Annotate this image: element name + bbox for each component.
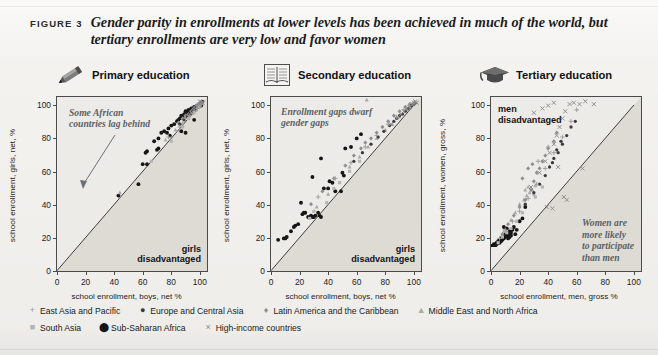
y-axis-tick-label: 100: [251, 100, 265, 110]
y-axis-tick: [487, 105, 491, 106]
y-axis-tick: [267, 205, 271, 206]
x-axis-tick-label: 40: [543, 277, 552, 287]
x-axis-tick-label: 20: [295, 277, 304, 287]
legend-item[interactable]: ×High-income countries: [202, 323, 302, 333]
x-axis-tick: [520, 271, 521, 275]
x-axis-title: school enrollment, boys, net %: [222, 292, 437, 301]
y-axis-tick-label: 40: [42, 200, 51, 210]
x-axis-tick: [271, 271, 272, 275]
x-axis-tick-label: 20: [515, 277, 524, 287]
y-axis-tick: [487, 205, 491, 206]
figure-caption: FIGURE 3 Gender parity in enrollments at…: [30, 14, 630, 47]
x-axis-tick: [86, 271, 87, 275]
legend-item-label: Middle East and North Africa: [429, 306, 538, 316]
annotation-arrow-icon: [75, 133, 123, 195]
legend-row: ■South Asia⬤Sub-Saharan Africa×High-inco…: [0, 319, 658, 336]
x-axis-tick-label: 0: [55, 277, 60, 287]
x-axis-tick-label: 80: [601, 277, 610, 287]
legend-item-label: High-income countries: [216, 323, 302, 333]
y-axis-tick-label: 80: [42, 133, 51, 143]
panel-header: Tertiary education: [438, 58, 658, 92]
y-axis-tick-label: 40: [476, 200, 485, 210]
legend-item[interactable]: ■South Asia: [26, 323, 81, 333]
legend-item-label: South Asia: [40, 323, 81, 333]
x-axis-tick: [200, 271, 201, 275]
y-axis-tick-label: 20: [256, 233, 265, 243]
x-axis-tick: [548, 271, 549, 275]
diamond-marker-icon: ♦: [259, 306, 272, 315]
legend-item-label: Europe and Central Asia: [150, 306, 243, 316]
corner-note: men disadvantaged: [498, 104, 562, 125]
x-axis-tick: [357, 271, 358, 275]
y-axis-tick-label: 100: [471, 100, 485, 110]
legend-item-label: Latin America and the Caribbean: [273, 306, 398, 316]
figure-root: FIGURE 3 Gender parity in enrollments at…: [0, 0, 658, 355]
x-axis-tick-label: 40: [323, 277, 332, 287]
y-axis-tick-label: 60: [476, 167, 485, 177]
legend-item[interactable]: ●Europe and Central Asia: [136, 306, 243, 316]
legend-item[interactable]: ♦Latin America and the Caribbean: [259, 306, 398, 316]
y-axis-tick-label: 60: [42, 167, 51, 177]
x-axis-tick-label: 100: [627, 277, 641, 287]
chart-panels: Primary education school enrollment, gir…: [0, 58, 658, 300]
legend-item[interactable]: +East Asia and Pacific: [26, 306, 120, 316]
legend-item-label: East Asia and Pacific: [40, 306, 120, 316]
y-axis-tick: [53, 138, 57, 139]
triangle-marker-icon: ▲: [415, 306, 428, 315]
x-axis-tick: [143, 271, 144, 275]
x-axis-tick: [577, 271, 578, 275]
x-axis-tick: [328, 271, 329, 275]
legend-item[interactable]: ⬤Sub-Saharan Africa: [97, 323, 186, 333]
pencil-icon: [54, 61, 88, 89]
y-axis-title: school enrollment, girls, net, %: [6, 94, 20, 276]
y-axis-tick: [53, 105, 57, 106]
x-axis-tick-label: 80: [167, 277, 176, 287]
x-axis-title: school enrollment, men, gross %: [438, 292, 654, 301]
legend-item[interactable]: ▲Middle East and North Africa: [415, 306, 538, 316]
panel-annotation: Some African countries lag behind: [69, 107, 150, 130]
legend-row: +East Asia and Pacific●Europe and Centra…: [0, 302, 658, 319]
y-axis-tick: [487, 138, 491, 139]
figure-caption-text: Gender parity in enrollments at lower le…: [91, 14, 630, 47]
panel-primary-education: Primary education school enrollment, gir…: [8, 58, 223, 300]
bottom-rule: [0, 349, 658, 350]
figure-number: FIGURE 3: [30, 17, 83, 29]
x-axis-tick-label: 0: [489, 277, 494, 287]
y-axis-tick-label: 0: [480, 266, 485, 276]
x-axis-tick: [300, 271, 301, 275]
y-axis-tick: [267, 138, 271, 139]
legend-item-label: Sub-Saharan Africa: [111, 323, 186, 333]
x-axis-tick: [491, 271, 492, 275]
x-axis-tick-label: 100: [193, 277, 207, 287]
y-axis-tick-label: 0: [46, 266, 51, 276]
panel-annotation: Enrollment gaps dwarf gender gaps: [281, 106, 372, 129]
x-axis-tick-label: 60: [352, 277, 361, 287]
y-axis-tick: [53, 172, 57, 173]
y-axis-tick: [53, 238, 57, 239]
y-axis-tick: [267, 105, 271, 106]
panel-title: Tertiary education: [516, 69, 612, 81]
x-axis-tick-label: 0: [269, 277, 274, 287]
x-axis-tick-label: 100: [407, 277, 421, 287]
x-axis-tick-label: 60: [572, 277, 581, 287]
x-axis-tick: [171, 271, 172, 275]
y-axis-tick: [487, 172, 491, 173]
filled-circle-marker-icon: ⬤: [97, 323, 110, 332]
plot-area: Some African countries lag behind girls …: [56, 96, 208, 272]
x-axis-tick-label: 60: [138, 277, 147, 287]
x-axis-tick: [385, 271, 386, 275]
circle-marker-icon: ●: [136, 306, 149, 315]
y-axis-tick-label: 60: [256, 167, 265, 177]
x-axis-tick: [57, 271, 58, 275]
y-axis-tick-label: 40: [256, 200, 265, 210]
x-axis-title: school enrollment, boys, net %: [8, 292, 223, 301]
x-axis-tick: [414, 271, 415, 275]
plot-area: men disadvantaged Women are more likely …: [490, 96, 642, 272]
open-book-icon: [260, 61, 294, 89]
plus-marker-icon: +: [26, 306, 39, 315]
corner-note: girls disadvantaged: [137, 244, 201, 265]
x-axis-tick: [605, 271, 606, 275]
legend: +East Asia and Pacific●Europe and Centra…: [0, 302, 658, 336]
x-axis-tick-label: 40: [109, 277, 118, 287]
graduation-cap-icon: [478, 61, 512, 89]
